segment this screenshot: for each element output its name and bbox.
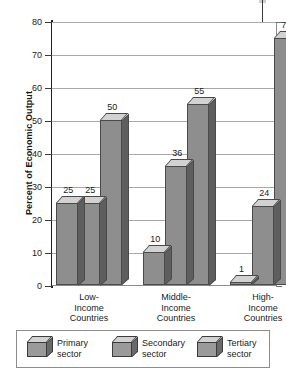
y-tick-label: 20	[16, 216, 42, 225]
y-tick-mark	[45, 55, 52, 56]
gridline	[52, 88, 276, 89]
bar-value-label: 24	[259, 189, 269, 198]
legend-label-line: Primary	[57, 338, 115, 349]
bar-front-face	[56, 203, 78, 286]
bar: 1	[230, 282, 252, 285]
bar-chart-figure: Percent of Economic Output 5025255536107…	[0, 0, 286, 372]
y-tick-mark	[45, 121, 52, 122]
legend-swatch-cube-icon	[27, 342, 47, 357]
gridline	[52, 55, 276, 56]
x-category-label-line: High-	[221, 292, 286, 303]
legend-label-line: Tertiary	[227, 338, 285, 349]
y-tick-mark	[45, 220, 52, 221]
y-tick-label: 10	[16, 249, 42, 258]
y-tick-label: 50	[16, 117, 42, 126]
bar-side-face	[100, 196, 107, 285]
legend-label: Secondarysector	[142, 338, 200, 359]
bar-side-face	[122, 114, 129, 285]
x-category-label: High-IncomeCountries	[221, 292, 286, 324]
bar-value-label: 50	[107, 103, 117, 112]
legend-label: Primarysector	[57, 338, 115, 359]
x-category-label-line: Income	[47, 303, 131, 314]
legend-label-line: Secondary	[142, 338, 200, 349]
bar-front-face	[252, 206, 274, 285]
gridline	[52, 154, 276, 155]
x-category-label-line: Middle-	[134, 292, 218, 303]
x-category-label-line: Income	[134, 303, 218, 314]
plot-area: 50252555361075241	[52, 22, 277, 286]
y-tick-label: 30	[16, 183, 42, 192]
y-tick-mark	[45, 154, 52, 155]
x-category-label: Low-IncomeCountries	[47, 292, 131, 324]
x-category-label: Middle-IncomeCountries	[134, 292, 218, 324]
legend-label-line: sector	[57, 349, 115, 360]
bar-value-label: 36	[172, 149, 182, 158]
bar-side-face	[165, 246, 172, 285]
legend-swatch-cube-icon	[197, 342, 217, 357]
gridline	[52, 22, 276, 23]
legend-swatch-front-face	[197, 342, 217, 357]
bar-front-face	[143, 252, 165, 285]
y-tick-mark	[45, 22, 52, 23]
bar-value-label: 75	[281, 21, 286, 30]
y-tick-label: 80	[16, 18, 42, 27]
legend-label-line: sector	[227, 349, 285, 360]
bar-side-face	[274, 200, 281, 285]
x-category-label-line: Income	[221, 303, 286, 314]
bar-side-face	[209, 97, 216, 285]
x-category-label-line: Countries	[221, 313, 286, 324]
y-tick-label: 60	[16, 84, 42, 93]
bar: 24	[252, 206, 274, 285]
legend-swatch-front-face	[112, 342, 132, 357]
bar-top-face	[274, 31, 286, 38]
y-tick-label: 70	[16, 51, 42, 60]
bar-side-face	[187, 160, 194, 285]
right-axis-tick	[276, 286, 282, 287]
legend-label-line: sector	[142, 349, 200, 360]
y-tick-mark	[45, 253, 52, 254]
bar-value-label: 10	[150, 235, 160, 244]
bar: 25	[56, 203, 78, 286]
bar-front-face	[230, 282, 252, 285]
x-category-label-line: Countries	[134, 313, 218, 324]
y-tick-mark	[45, 286, 52, 287]
bar: 10	[143, 252, 165, 285]
bar-value-label: 1	[239, 265, 244, 274]
chart-legend: PrimarysectorSecondarysectorTertiarysect…	[16, 330, 270, 368]
legend-label: Tertiarysector	[227, 338, 285, 359]
x-category-label-line: Countries	[47, 313, 131, 324]
bar-value-label: 25	[63, 186, 73, 195]
callout-leader-line	[262, 0, 263, 22]
y-tick-mark	[45, 187, 52, 188]
bar-value-label: 25	[85, 186, 95, 195]
legend-swatch-cube-icon	[112, 342, 132, 357]
legend-swatch-front-face	[27, 342, 47, 357]
x-category-label-line: Low-	[47, 292, 131, 303]
bar-value-label: 55	[194, 87, 204, 96]
bar-side-face	[78, 196, 85, 285]
gridline	[52, 121, 276, 122]
y-tick-mark	[45, 88, 52, 89]
y-tick-label: 40	[16, 150, 42, 159]
y-tick-label: 0	[16, 282, 42, 291]
